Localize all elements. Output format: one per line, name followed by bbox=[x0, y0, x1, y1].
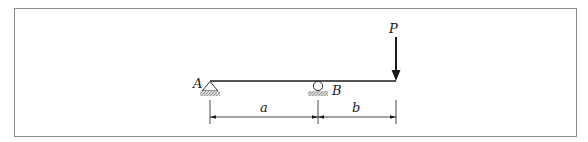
pin-support-a-icon bbox=[200, 82, 220, 97]
dimension-lines bbox=[210, 100, 396, 124]
dimension-a-label: a bbox=[260, 100, 268, 115]
load-arrow-icon bbox=[392, 37, 401, 81]
support-a-label: A bbox=[192, 76, 202, 91]
support-b-label: B bbox=[331, 83, 342, 98]
roller-support-b-icon bbox=[308, 81, 328, 96]
dimension-b-label: b bbox=[352, 100, 360, 115]
load-label: P bbox=[388, 21, 398, 36]
beam-diagram: A B P a b bbox=[0, 0, 588, 142]
